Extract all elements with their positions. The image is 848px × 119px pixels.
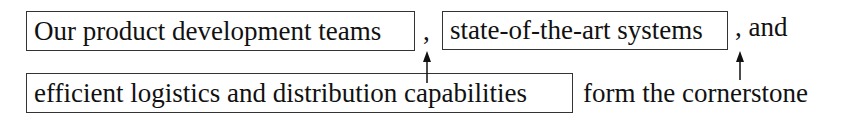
arrow-up-icon bbox=[736, 51, 744, 80]
arrow-up-icon bbox=[423, 51, 431, 83]
arrows-layer bbox=[0, 0, 848, 119]
